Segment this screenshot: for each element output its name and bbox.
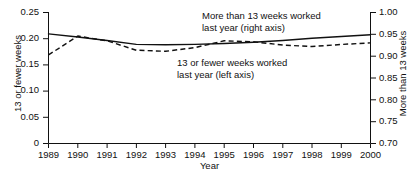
x-tick-label-2000: 2000	[356, 149, 386, 160]
y-right-tick-label-0.70: 0.70	[379, 137, 411, 148]
y-right-tick-label-0.95: 0.95	[379, 28, 411, 39]
legend-fewer-line-1: 13 or fewer weeks worked	[177, 57, 287, 69]
y-right-tick-label-0.75: 0.75	[379, 115, 411, 126]
left-axis-ticks	[43, 13, 49, 144]
x-tick-label-1992: 1992	[121, 149, 151, 160]
series-line-13-or-fewer-weeks	[49, 36, 371, 55]
y-left-tick-label-0: 0	[9, 137, 39, 148]
legend-fewer-line-2: last year (left axis)	[177, 69, 287, 81]
y-left-tick-label-0.25: 0.25	[9, 6, 39, 17]
legend-more-line-2: last year (right axis)	[202, 22, 321, 34]
legend-more-line-1: More than 13 weeks worked	[202, 10, 321, 22]
y-right-tick-label-0.80: 0.80	[379, 94, 411, 105]
x-tick-label-1999: 1999	[326, 149, 356, 160]
x-tick-label-1994: 1994	[180, 149, 210, 160]
x-tick-label-1995: 1995	[209, 149, 239, 160]
y-right-tick-label-0.85: 0.85	[379, 72, 411, 83]
y-left-tick-label-0.15: 0.15	[9, 58, 39, 69]
x-tick-label-1996: 1996	[239, 149, 269, 160]
y-left-tick-label-0.10: 0.10	[9, 84, 39, 95]
y-right-tick-label-1.00: 1.00	[379, 6, 411, 17]
y-left-tick-label-0.20: 0.20	[9, 32, 39, 43]
chart-figure: 13 or fewer weeks More than 13 weeks Yea…	[0, 0, 419, 177]
x-axis-ticks	[49, 144, 371, 149]
x-tick-label-1998: 1998	[297, 149, 327, 160]
x-tick-label-1990: 1990	[63, 149, 93, 160]
x-tick-label-1989: 1989	[34, 149, 64, 160]
legend-annotation-more-than-13-weeks: More than 13 weeks worked last year (rig…	[202, 10, 321, 33]
legend-annotation-13-or-fewer-weeks: 13 or fewer weeks worked last year (left…	[177, 57, 287, 80]
y-left-tick-label-0.05: 0.05	[9, 111, 39, 122]
x-axis-title: Year	[0, 160, 419, 171]
x-tick-label-1993: 1993	[151, 149, 181, 160]
x-tick-label-1997: 1997	[268, 149, 298, 160]
y-right-tick-label-0.90: 0.90	[379, 50, 411, 61]
x-tick-label-1991: 1991	[92, 149, 122, 160]
cut-off-caption	[4, 171, 304, 175]
right-axis-ticks	[371, 13, 377, 144]
